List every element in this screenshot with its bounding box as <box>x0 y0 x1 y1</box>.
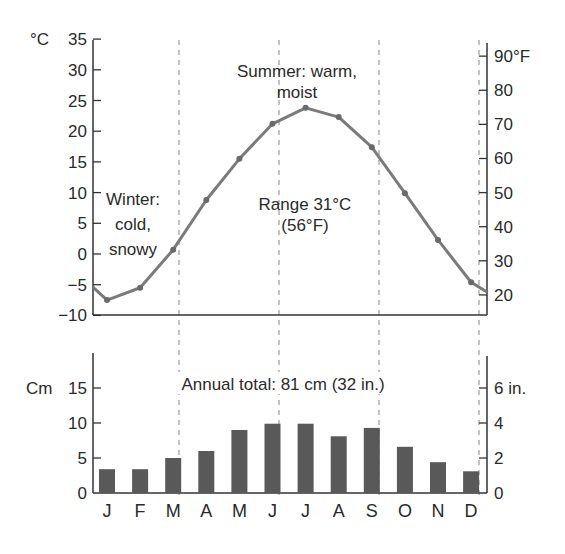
celsius-tick-label: −5 <box>68 276 87 295</box>
range-annotation: Range 31°C <box>259 195 352 214</box>
temperature-point <box>303 105 309 111</box>
season-divider-lines <box>179 40 479 500</box>
month-label: S <box>366 501 378 521</box>
fahrenheit-tick-label: 40 <box>494 218 513 237</box>
temperature-point <box>336 114 342 120</box>
month-label: D <box>465 501 478 521</box>
precip-bar <box>265 424 281 493</box>
summer-annotation: moist <box>277 83 318 102</box>
summer-annotation: Summer: warm, <box>237 62 357 81</box>
celsius-tick-label: 35 <box>68 30 87 49</box>
precipitation-bars: JFMAMJJASOND <box>99 424 479 521</box>
temperature-point <box>468 279 474 285</box>
temperature-point <box>203 197 209 203</box>
month-label: M <box>166 501 181 521</box>
inch-tick-label: 2 <box>494 449 503 468</box>
month-label: O <box>398 501 412 521</box>
cm-unit-label: Cm <box>26 379 52 398</box>
month-label: J <box>103 501 112 521</box>
temperature-point <box>137 285 143 291</box>
winter-annotation: Winter: <box>106 190 160 209</box>
fahrenheit-tick-label: 50 <box>494 184 513 203</box>
month-label: M <box>232 501 247 521</box>
celsius-tick-label: −10 <box>58 306 87 325</box>
cm-tick-label: 5 <box>78 449 87 468</box>
precip-bar <box>132 469 148 493</box>
precip-bar <box>364 428 380 493</box>
chart-annotations: Summer: warm,moistWinter:cold,snowyRange… <box>106 62 394 394</box>
precip-bar <box>99 469 115 493</box>
celsius-tick-label: 5 <box>78 214 87 233</box>
temperature-point <box>170 247 176 253</box>
celsius-tick-label: 10 <box>68 184 87 203</box>
precip-bar <box>430 462 446 493</box>
fahrenheit-tick-label: 30 <box>494 252 513 271</box>
inch-tick-label: 4 <box>494 414 503 433</box>
temperature-point <box>435 237 441 243</box>
month-label: A <box>200 501 212 521</box>
fahrenheit-tick-label: 90°F <box>494 47 530 66</box>
range-annotation: (56°F) <box>281 216 328 235</box>
cm-tick-label: 15 <box>68 379 87 398</box>
winter-annotation: cold, <box>115 215 151 234</box>
fahrenheit-tick-label: 60 <box>494 149 513 168</box>
precip-bar <box>198 451 214 493</box>
month-label: F <box>135 501 146 521</box>
fahrenheit-tick-label: 80 <box>494 81 513 100</box>
temperature-point <box>369 144 375 150</box>
celsius-tick-label: 15 <box>68 153 87 172</box>
celsius-tick-label: 20 <box>68 122 87 141</box>
month-label: J <box>268 501 277 521</box>
fahrenheit-tick-label: 20 <box>494 286 513 305</box>
precip-bar <box>331 436 347 493</box>
celsius-tick-label: 0 <box>78 245 87 264</box>
cm-tick-label: 0 <box>78 484 87 503</box>
precip-bar <box>298 424 314 493</box>
inch-tick-label: 6 in. <box>494 379 526 398</box>
temperature-point <box>236 156 242 162</box>
month-label: J <box>301 501 310 521</box>
month-label: A <box>333 501 345 521</box>
fahrenheit-tick-label: 70 <box>494 115 513 134</box>
precip-bar <box>397 447 413 493</box>
climate-chart: −10−505101520253035°C2030405060708090°F … <box>0 0 565 554</box>
annual-total-annotation: Annual total: 81 cm (32 in.) <box>181 375 384 394</box>
precip-bar <box>165 458 181 493</box>
winter-annotation: snowy <box>109 240 158 259</box>
temperature-point <box>402 190 408 196</box>
celsius-unit-label: °C <box>30 30 49 49</box>
cm-tick-label: 10 <box>68 414 87 433</box>
celsius-tick-label: 25 <box>68 92 87 111</box>
precip-bar <box>463 471 479 493</box>
precip-bar <box>231 430 247 493</box>
temperature-point <box>104 297 110 303</box>
celsius-tick-label: 30 <box>68 61 87 80</box>
temperature-point <box>270 121 276 127</box>
month-label: N <box>432 501 445 521</box>
inch-tick-label: 0 <box>494 484 503 503</box>
